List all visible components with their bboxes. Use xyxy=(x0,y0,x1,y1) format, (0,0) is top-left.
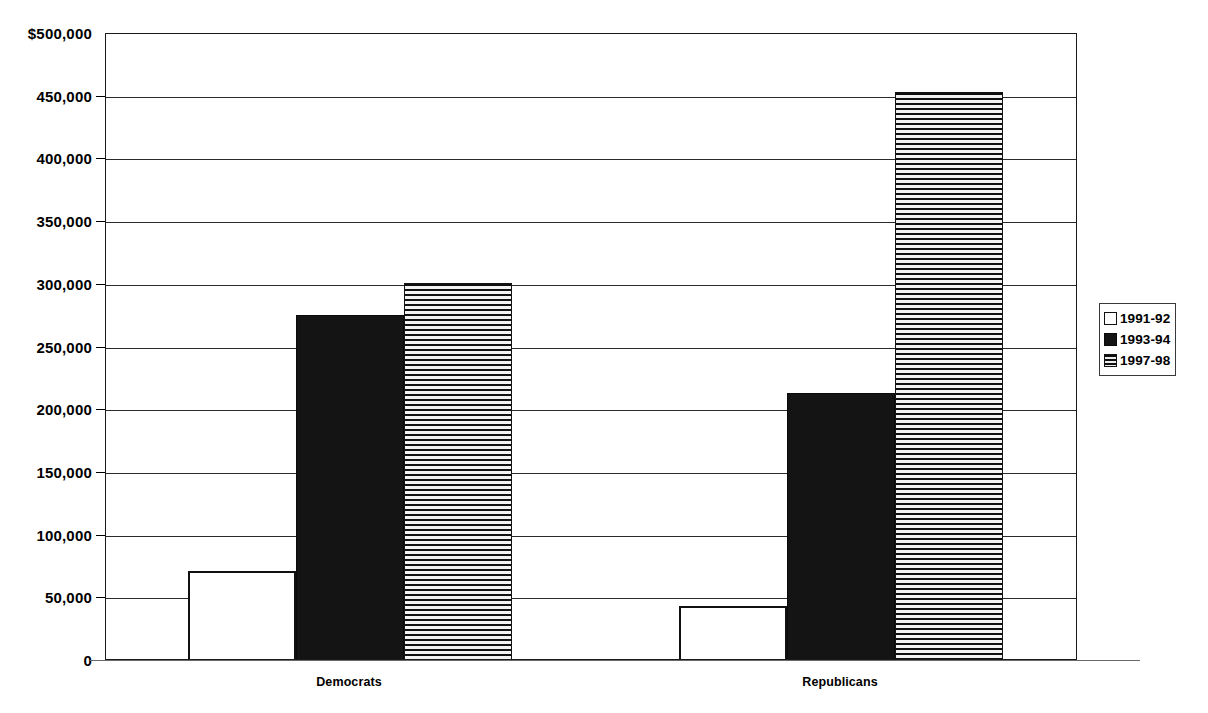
bar xyxy=(895,92,1003,659)
x-axis-category-label: Democrats xyxy=(316,675,382,689)
y-axis-tick-label: $500,000 xyxy=(0,26,92,41)
y-axis-tick-mark xyxy=(96,284,105,285)
bar xyxy=(188,571,296,659)
legend-swatch-icon xyxy=(1104,354,1117,367)
legend-item-label: 1993-94 xyxy=(1120,332,1170,347)
y-axis-tick-mark xyxy=(96,409,105,410)
y-axis-tick-label: 300,000 xyxy=(0,276,92,291)
y-axis-tick-label: 100,000 xyxy=(0,527,92,542)
y-axis-tick-label: 200,000 xyxy=(0,402,92,417)
legend-item[interactable]: 1997-98 xyxy=(1104,350,1170,371)
y-axis-tick-label: 350,000 xyxy=(0,214,92,229)
bar xyxy=(404,283,512,659)
legend-item[interactable]: 1991-92 xyxy=(1104,308,1170,329)
legend-item-label: 1997-98 xyxy=(1120,353,1170,368)
legend-item[interactable]: 1993-94 xyxy=(1104,329,1170,350)
y-axis-tick-mark xyxy=(96,96,105,97)
y-axis-tick-label: 450,000 xyxy=(0,88,92,103)
legend-swatch-icon xyxy=(1104,312,1117,325)
x-axis-category-label: Republicans xyxy=(802,675,877,689)
y-axis-tick-label: 400,000 xyxy=(0,151,92,166)
y-axis-tick-mark xyxy=(96,347,105,348)
plot-area xyxy=(105,33,1077,660)
y-axis-tick-mark xyxy=(96,597,105,598)
y-axis-tick-mark xyxy=(96,221,105,222)
x-axis-baseline xyxy=(90,660,1140,661)
bar xyxy=(787,393,895,659)
y-axis-tick-label: 0 xyxy=(0,653,92,668)
y-axis-tick-label: 50,000 xyxy=(0,590,92,605)
bar xyxy=(679,606,787,659)
y-axis-tick-mark xyxy=(96,472,105,473)
legend-swatch-icon xyxy=(1104,333,1117,346)
legend-item-label: 1991-92 xyxy=(1120,311,1170,326)
bar xyxy=(296,315,404,659)
y-axis-tick-mark xyxy=(96,158,105,159)
y-axis-tick-label: 150,000 xyxy=(0,464,92,479)
y-axis-tick-label: 250,000 xyxy=(0,339,92,354)
chart-legend[interactable]: 1991-921993-941997-98 xyxy=(1099,303,1176,376)
y-axis-label-group: 050,000100,000150,000200,000250,000300,0… xyxy=(0,0,92,713)
y-axis-tick-mark xyxy=(96,535,105,536)
bar-chart: 050,000100,000150,000200,000250,000300,0… xyxy=(0,0,1208,713)
